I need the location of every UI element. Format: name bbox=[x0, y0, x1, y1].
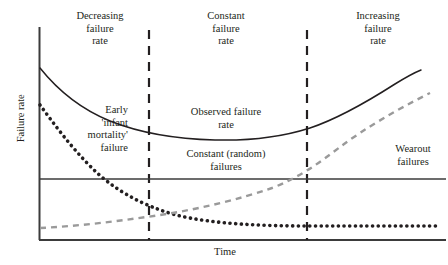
phase-header-increasing: Increasing failure rate bbox=[318, 10, 438, 48]
curve-label-wearout-failures: Wearout failures bbox=[382, 143, 444, 168]
bathtub-curve-figure: Decreasing failure rate Constant failure… bbox=[0, 0, 448, 265]
phase-header-constant: Constant failure rate bbox=[166, 10, 286, 48]
curve-label-early-infant-mortality: Early 'infant mortality' failure bbox=[42, 104, 128, 154]
y-axis-label: Failure rate bbox=[15, 78, 28, 158]
x-axis-label: Time bbox=[165, 246, 285, 259]
curve-label-constant-random-failures: Constant (random) failures bbox=[160, 148, 292, 173]
phase-header-decreasing: Decreasing failure rate bbox=[40, 10, 160, 48]
curve-label-observed-failure-rate: Observed failure rate bbox=[168, 106, 284, 131]
